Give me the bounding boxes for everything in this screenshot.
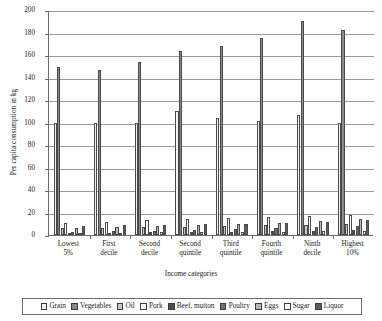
y-axis-label: 60	[9, 165, 35, 172]
y-axis-label: 160	[9, 52, 35, 59]
x-axis-separator	[130, 235, 131, 239]
bar	[341, 30, 344, 235]
x-axis-category-line: First	[86, 240, 132, 249]
x-axis-category-label: Fourthquintile	[248, 240, 294, 257]
legend-swatch-icon	[284, 303, 291, 310]
legend-item[interactable]: Liquor	[315, 303, 343, 310]
bar	[138, 62, 141, 235]
legend-swatch-icon	[71, 303, 78, 310]
bar-group	[252, 10, 293, 235]
legend-item[interactable]: Oil	[117, 303, 135, 310]
x-axis-separator	[90, 235, 91, 239]
legend-swatch-icon	[255, 303, 262, 310]
x-axis-category-line: quintile	[167, 249, 213, 258]
bar	[179, 51, 182, 236]
bar-group	[333, 10, 374, 235]
legend-swatch-icon	[168, 303, 175, 310]
x-axis-category-label: Thirdquintile	[208, 240, 254, 257]
bar-group	[90, 10, 131, 235]
x-axis-category-line: Highest	[330, 240, 376, 249]
bar	[98, 70, 101, 235]
legend-label: Pork	[149, 303, 163, 310]
legend-item[interactable]: Poultry	[220, 303, 250, 310]
bar	[220, 46, 223, 235]
y-axis-label: 0	[9, 232, 35, 239]
legend-label: Grain	[49, 303, 65, 310]
y-axis-tick	[45, 236, 49, 237]
x-axis-category-line: 5%	[45, 249, 91, 258]
x-axis-separator	[293, 235, 294, 239]
y-axis-label: 180	[9, 30, 35, 37]
legend-label: Sugar	[293, 303, 310, 310]
legend-swatch-icon	[220, 303, 227, 310]
bar-group	[130, 10, 171, 235]
bar	[123, 225, 126, 235]
bar	[366, 220, 369, 235]
legend-label: Poultry	[229, 303, 250, 310]
legend-label: Beef, mutton	[177, 303, 215, 310]
bar	[326, 222, 329, 236]
x-axis-category-line: decile	[127, 249, 173, 258]
bar-group	[171, 10, 212, 235]
chart-container: Per capita consumption in kg 02040608010…	[0, 0, 382, 321]
y-axis-label: 140	[9, 75, 35, 82]
y-axis-label: 200	[9, 7, 35, 14]
x-axis-category-label: Lowest5%	[45, 240, 91, 257]
x-axis-category-line: quintile	[208, 249, 254, 258]
x-axis-category-line: Ninth	[289, 240, 335, 249]
chart-legend: GrainVegetablesOilPorkBeef, muttonPoultr…	[22, 298, 362, 315]
legend-swatch-icon	[41, 303, 48, 310]
legend-label: Eggs	[264, 303, 278, 310]
x-axis-separator	[212, 235, 213, 239]
x-axis-category-line: quintile	[248, 249, 294, 258]
bar	[285, 223, 288, 235]
x-axis-category-line: Second	[127, 240, 173, 249]
x-axis-category-line: decile	[289, 249, 335, 258]
x-axis-category-label: Firstdecile	[86, 240, 132, 257]
legend-label: Oil	[125, 303, 134, 310]
x-axis-category-line: decile	[86, 249, 132, 258]
y-axis-label: 80	[9, 142, 35, 149]
legend-item[interactable]: Grain	[41, 303, 66, 310]
y-axis-label: 120	[9, 97, 35, 104]
x-axis-category-line: Second	[167, 240, 213, 249]
legend-item[interactable]: Vegetables	[71, 303, 111, 310]
x-axis-category-label: Secondquintile	[167, 240, 213, 257]
x-axis-category-label: Ninthdecile	[289, 240, 335, 257]
bar-group	[49, 10, 90, 235]
x-axis-category-line: 10%	[330, 249, 376, 258]
x-axis-category-label: Highest10%	[330, 240, 376, 257]
bar-group	[293, 10, 334, 235]
legend-swatch-icon	[140, 303, 147, 310]
x-axis-title: Income categories	[0, 270, 382, 278]
legend-label: Liquor	[324, 303, 344, 310]
legend-item[interactable]: Pork	[140, 303, 162, 310]
bar	[57, 67, 60, 235]
legend-swatch-icon	[117, 303, 124, 310]
y-axis-label: 20	[9, 210, 35, 217]
y-axis-label: 100	[9, 120, 35, 127]
legend-item[interactable]: Eggs	[255, 303, 278, 310]
x-axis-separator	[252, 235, 253, 239]
plot-area: 020406080100120140160180200	[48, 11, 373, 236]
y-axis-label: 40	[9, 187, 35, 194]
x-axis-category-line: Lowest	[45, 240, 91, 249]
legend-item[interactable]: Beef, mutton	[168, 303, 214, 310]
bar	[163, 225, 166, 235]
x-axis-category-line: Fourth	[248, 240, 294, 249]
bar	[82, 226, 85, 235]
legend-item[interactable]: Sugar	[284, 303, 310, 310]
x-axis-category-label: Seconddecile	[127, 240, 173, 257]
legend-swatch-icon	[315, 303, 322, 310]
bar	[301, 21, 304, 235]
x-axis-separator	[333, 235, 334, 239]
x-axis-separator	[171, 235, 172, 239]
x-axis-category-line: Third	[208, 240, 254, 249]
bar	[204, 224, 207, 235]
bar-group	[212, 10, 253, 235]
bar	[260, 38, 263, 235]
legend-label: Vegetables	[80, 303, 111, 310]
bar	[244, 224, 247, 235]
